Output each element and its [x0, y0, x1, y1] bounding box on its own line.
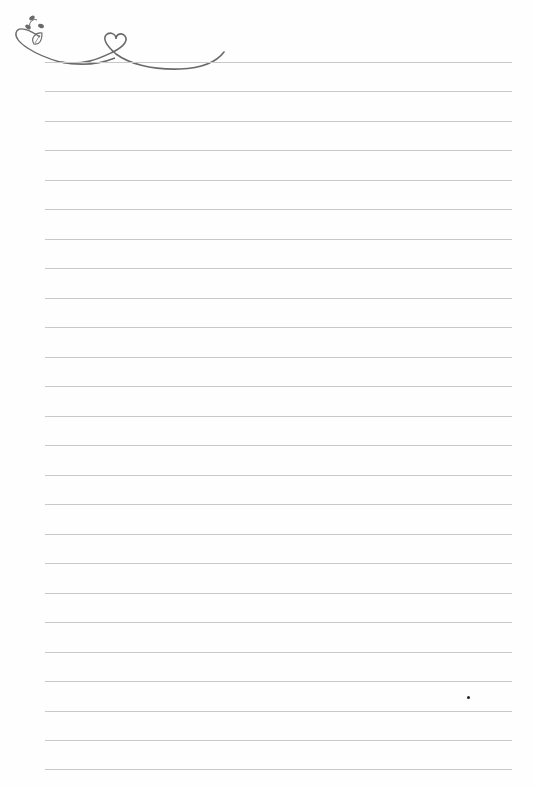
rule-line: [45, 386, 512, 387]
rule-line: [45, 593, 512, 594]
rule-line: [45, 445, 512, 446]
rule-line: [45, 652, 512, 653]
rule-line: [45, 475, 512, 476]
rule-line: [45, 239, 512, 240]
rule-line: [45, 769, 512, 770]
rule-line: [45, 563, 512, 564]
rule-line: [45, 121, 512, 122]
rule-line: [45, 622, 512, 623]
rule-line: [45, 711, 512, 712]
notepaper-page: [0, 0, 533, 787]
rule-line: [45, 62, 512, 63]
rule-line: [45, 681, 512, 682]
rule-line: [45, 298, 512, 299]
rule-line: [45, 740, 512, 741]
rule-line: [45, 504, 512, 505]
rule-line: [45, 150, 512, 151]
rule-line: [45, 209, 512, 210]
rule-line: [45, 180, 512, 181]
rule-line: [45, 357, 512, 358]
rule-line: [45, 416, 512, 417]
stray-ink-dot: [467, 696, 470, 699]
rule-line: [45, 534, 512, 535]
rule-line: [45, 327, 512, 328]
rule-line: [45, 91, 512, 92]
heart-vine-flourish-icon: [0, 0, 240, 80]
rule-line: [45, 268, 512, 269]
